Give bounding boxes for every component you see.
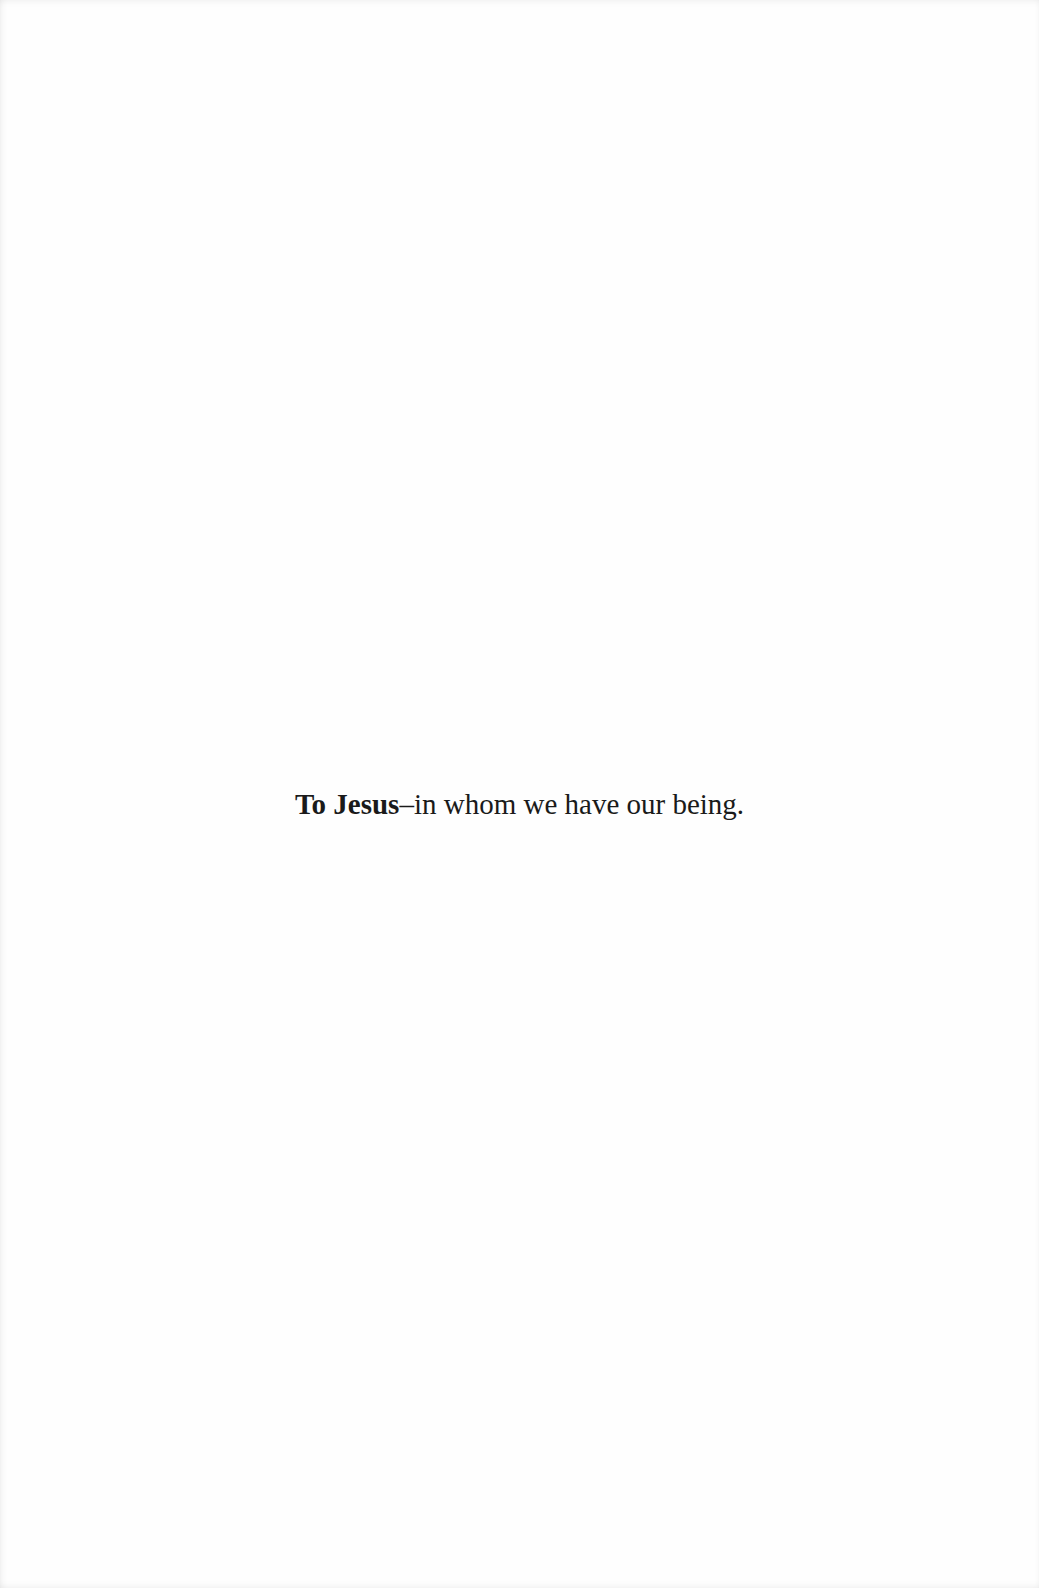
dedication-line: To Jesus–in whom we have our being. [0,786,1039,822]
dedication-text: –in whom we have our being. [399,788,744,820]
dedication-recipient: To Jesus [295,788,400,820]
book-page: To Jesus–in whom we have our being. [0,0,1039,1588]
